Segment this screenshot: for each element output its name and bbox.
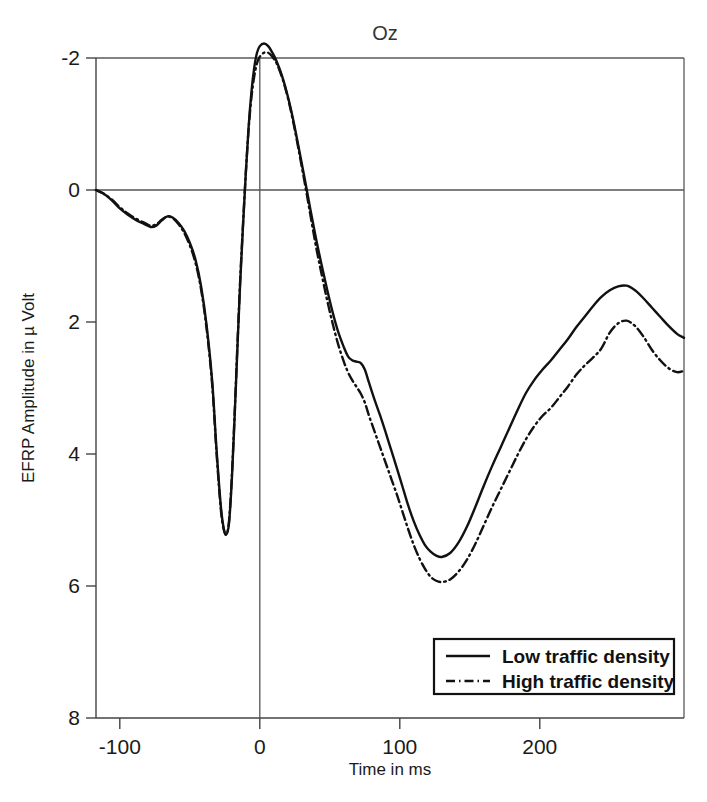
x-axis-title: Time in ms — [349, 760, 432, 779]
x-axis-tick-label: 200 — [522, 735, 557, 758]
figure-container: Oz -202468 -1000100200 Time in ms EFRP A… — [0, 0, 707, 802]
series-line-high-traffic-density — [96, 52, 684, 582]
y-axis-tick-label: 0 — [68, 178, 80, 201]
x-axis: -1000100200 — [96, 718, 684, 758]
legend-label-high-traffic-density: High traffic density — [502, 671, 675, 692]
x-axis-tick-label: 100 — [382, 735, 417, 758]
x-axis-tick-label: -100 — [99, 735, 141, 758]
y-axis-tick-label: 6 — [68, 574, 80, 597]
data-series-layer — [96, 43, 684, 582]
y-axis-tick-label: 8 — [68, 706, 80, 729]
chart-legend[interactable]: Low traffic densityHigh traffic density — [434, 639, 675, 694]
plot-frame — [96, 58, 684, 718]
erp-waveform-chart: Oz -202468 -1000100200 Time in ms EFRP A… — [0, 0, 707, 802]
y-axis: -202468 — [61, 46, 96, 729]
chart-title: Oz — [372, 22, 398, 44]
series-line-low-traffic-density — [96, 43, 684, 557]
y-axis-tick-label: 2 — [68, 310, 80, 333]
legend-label-low-traffic-density: Low traffic density — [502, 646, 670, 667]
y-axis-title: EFRP Amplitude in µ Volt — [19, 293, 38, 483]
y-axis-tick-label: 4 — [68, 442, 80, 465]
zero-reference-lines — [96, 58, 684, 718]
x-axis-tick-label: 0 — [254, 735, 266, 758]
y-axis-tick-label: -2 — [61, 46, 80, 69]
